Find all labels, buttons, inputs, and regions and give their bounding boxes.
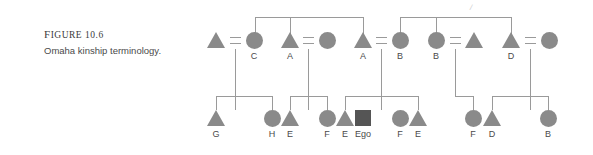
parent-symbol-circle xyxy=(319,32,336,49)
child-sibling-bar-4 xyxy=(492,96,548,97)
parent-symbol-triangle-a xyxy=(281,32,299,48)
ego-gen-label-d: D xyxy=(489,129,496,139)
child-stem-right-4 xyxy=(548,96,549,110)
ego-gen-label-f: F xyxy=(324,129,330,139)
descent-drop-1 xyxy=(308,49,309,96)
ego-gen-symbol-square-ego xyxy=(355,110,371,126)
ego-gen-symbol-circle-f xyxy=(392,110,409,127)
parent-sibling-bar-0 xyxy=(255,17,363,18)
child-sibling-bar-3 xyxy=(455,96,473,97)
child-stem-right-0 xyxy=(272,96,273,110)
child-stem-mid-2 xyxy=(381,96,382,110)
child-stem-mid-0 xyxy=(235,96,236,110)
parent-symbol-triangle xyxy=(465,32,483,48)
descent-drop-0 xyxy=(235,49,236,96)
ego-gen-label-e: E xyxy=(342,129,348,139)
child-stem-left-0 xyxy=(216,96,217,110)
parent-label-d: D xyxy=(508,51,515,61)
parent-symbol-circle xyxy=(541,32,558,49)
ego-gen-label-e: E xyxy=(287,129,293,139)
child-stem-mid-1 xyxy=(308,96,309,110)
ego-gen-label-f: F xyxy=(397,129,403,139)
parent-label-c: C xyxy=(251,51,258,61)
ego-gen-symbol-circle-f xyxy=(319,110,336,127)
parent-label-b: B xyxy=(433,51,439,61)
ego-gen-symbol-circle-h xyxy=(264,110,281,127)
child-sibling-bar-0 xyxy=(216,96,272,97)
ego-gen-symbol-triangle-g xyxy=(207,110,225,126)
ego-gen-label-f: F xyxy=(470,129,476,139)
parent-label-a: A xyxy=(360,51,366,61)
figure-container: FIGURE 10.6 Omaha kinship terminology. C… xyxy=(0,0,593,155)
child-stem-left-4 xyxy=(492,96,493,110)
ego-gen-symbol-triangle-d xyxy=(483,110,501,126)
descent-drop-3 xyxy=(455,49,456,96)
parent-label-a: A xyxy=(287,51,293,61)
child-stem-mid-4 xyxy=(530,96,531,110)
ego-gen-symbol-circle-b xyxy=(540,110,557,127)
child-stem-left-1 xyxy=(290,96,291,110)
ego-gen-label-h: H xyxy=(269,129,276,139)
ego-gen-label-b: B xyxy=(545,129,551,139)
ego-gen-symbol-triangle-e xyxy=(336,110,354,126)
child-stem-left-2 xyxy=(345,96,346,110)
parent-symbol-triangle-a xyxy=(354,32,372,48)
marriage-equals-3 xyxy=(450,37,461,44)
parent-sibling-bar-1 xyxy=(400,17,511,18)
marriage-equals-4 xyxy=(525,37,536,44)
parent-symbol-circle-c xyxy=(246,32,263,49)
child-stem-right-1 xyxy=(327,96,328,110)
parent-symbol-circle-b xyxy=(428,32,445,49)
page-artifact-slash: / xyxy=(469,3,473,12)
parent-symbol-circle-b xyxy=(392,32,409,49)
ego-gen-label-g: G xyxy=(212,129,219,139)
descent-drop-4 xyxy=(530,49,531,96)
ego-gen-symbol-triangle-e xyxy=(409,110,427,126)
child-stem-left-3 xyxy=(473,96,474,110)
ego-gen-symbol-circle-f xyxy=(465,110,482,127)
marriage-equals-2 xyxy=(376,37,387,44)
ego-gen-label-ego: Ego xyxy=(355,129,371,139)
child-stem-right-2 xyxy=(418,96,419,110)
kinship-diagram: CAABBDGHEFEEgoFEFDB/ xyxy=(0,0,593,155)
marriage-equals-1 xyxy=(303,37,314,44)
descent-drop-2 xyxy=(381,49,382,96)
parent-label-b: B xyxy=(397,51,403,61)
marriage-equals-0 xyxy=(230,37,241,44)
ego-gen-label-e: E xyxy=(415,129,421,139)
parent-symbol-triangle xyxy=(207,32,225,48)
ego-gen-symbol-triangle-e xyxy=(281,110,299,126)
parent-symbol-triangle-d xyxy=(502,32,520,48)
